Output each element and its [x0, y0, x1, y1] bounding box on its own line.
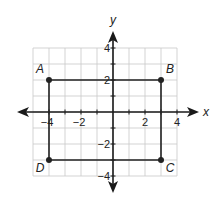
- labels: −4−22442−2−4xyABCD: [35, 13, 210, 182]
- coordinate-plane-diagram: −4−22442−2−4xyABCD: [0, 0, 220, 205]
- x-tick-label: 2: [142, 116, 148, 128]
- x-axis-label: x: [202, 105, 210, 119]
- y-tick-label: −2: [97, 138, 110, 150]
- vertex-point-c: [158, 157, 164, 163]
- vertex-point-b: [158, 77, 164, 83]
- x-tick-label: −4: [41, 116, 54, 128]
- vertex-label-c: C: [166, 161, 175, 175]
- vertex-label-b: B: [166, 62, 174, 76]
- coordinate-plane-svg: −4−22442−2−4xyABCD: [0, 0, 220, 205]
- vertex-point-d: [46, 157, 52, 163]
- vertex-point-a: [46, 77, 52, 83]
- y-tick-label: −4: [97, 170, 110, 182]
- y-axis-label: y: [109, 13, 117, 27]
- y-tick-label: 2: [104, 74, 110, 86]
- vertex-label-a: A: [35, 62, 44, 76]
- y-tick-label: 4: [104, 42, 110, 54]
- x-tick-label: −2: [73, 116, 86, 128]
- vertex-label-d: D: [36, 161, 45, 175]
- x-tick-label: 4: [174, 116, 180, 128]
